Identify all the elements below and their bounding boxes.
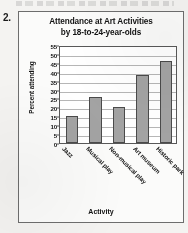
- chart-title-line-2: by 18-to-24-year-olds: [19, 28, 183, 39]
- bar: [66, 116, 78, 143]
- y-axis-tick-mark: [57, 90, 59, 91]
- question-number: 2.: [3, 12, 11, 23]
- y-axis-tick-mark: [57, 99, 59, 100]
- bar: [113, 107, 125, 143]
- y-axis-tick-mark: [57, 46, 59, 47]
- bar: [89, 97, 101, 143]
- chart-title-line-1: Attendance at Art Activities: [19, 17, 183, 28]
- y-axis-tick-mark: [57, 126, 59, 127]
- x-axis-category-labels: JazzMusical playNon-musical playArt muse…: [59, 145, 188, 207]
- x-axis-category-label: Jazz: [61, 145, 75, 159]
- chart-title: Attendance at Art Activities by 18-to-24…: [19, 17, 183, 38]
- worksheet-page: 2. Attendance at Art Activities by 18-to…: [0, 0, 188, 233]
- plot-area: [59, 46, 177, 144]
- y-axis-tick-mark: [57, 63, 59, 64]
- x-axis-title: Activity: [19, 208, 183, 215]
- bar: [160, 61, 172, 143]
- y-axis-tick-mark: [57, 54, 59, 55]
- bar: [136, 75, 148, 143]
- y-axis-tick-mark: [57, 117, 59, 118]
- chart-figure: Attendance at Art Activities by 18-to-24…: [18, 11, 184, 223]
- y-axis-tick-mark: [57, 135, 59, 136]
- y-axis-title: Percent attending: [28, 57, 35, 119]
- page-top-bleed-text: [16, 1, 174, 6]
- y-axis-tick-mark: [57, 81, 59, 82]
- y-axis-tick-mark: [57, 108, 59, 109]
- bar-series: [60, 47, 176, 143]
- plot-wrapper: 0510152025303540455055: [59, 46, 177, 144]
- y-axis-tick-mark: [57, 72, 59, 73]
